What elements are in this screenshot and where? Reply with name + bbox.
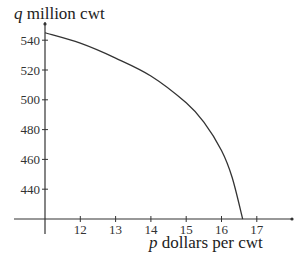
y-tick-label: 500 bbox=[21, 92, 41, 107]
y-tick-label: 540 bbox=[21, 33, 41, 48]
demand-curve bbox=[45, 33, 243, 219]
y-tick-label: 520 bbox=[21, 63, 41, 78]
chart-canvas: 440460480500520540 121314151617 q millio… bbox=[0, 0, 299, 261]
x-axis-label: p dollars per cwt bbox=[148, 233, 263, 252]
y-ticks: 440460480500520540 bbox=[21, 33, 49, 197]
y-tick-label: 460 bbox=[21, 152, 41, 167]
x-tick-label: 12 bbox=[74, 222, 87, 237]
x-axis-arrow bbox=[290, 217, 293, 220]
x-tick-label: 13 bbox=[109, 222, 122, 237]
y-tick-label: 480 bbox=[21, 122, 41, 137]
y-axis-label: q million cwt bbox=[14, 4, 105, 23]
y-tick-label: 440 bbox=[21, 182, 41, 197]
